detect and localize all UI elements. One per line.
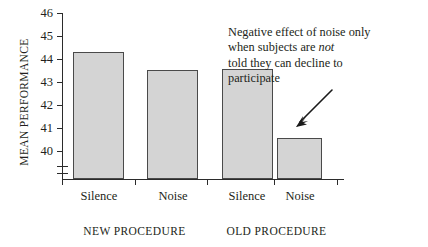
y-tick-label-46: 46 [41,5,54,21]
annotation-arrow-icon [288,88,336,132]
x-tick-0 [62,180,63,185]
y-axis-break-icon [57,163,69,179]
bar-old-noise [277,138,322,179]
group-label-old-procedure: OLD PROCEDURE [199,225,354,237]
annotation-line-2-prefix: when subjects are [228,40,319,54]
bar-chart-figure: MEAN PERFORMANCE 46 45 44 43 42 41 40 [0,0,428,247]
y-tick-44: 44 [57,59,62,60]
y-tick-label-42: 42 [41,97,54,113]
y-tick-46: 46 [57,13,62,14]
x-tick-1 [135,180,136,185]
y-tick-40: 40 [57,151,62,152]
x-tick-3 [274,180,275,185]
y-tick-43: 43 [57,82,62,83]
x-category-label-old-noise: Noise [269,189,331,204]
x-category-label-new-noise: Noise [142,189,204,204]
x-axis-line [62,179,344,180]
y-tick-label-41: 41 [41,120,54,136]
y-tick-label-40: 40 [41,143,54,159]
bar-new-noise [147,70,198,179]
chart-annotation: Negative effect of noise only when subje… [228,25,424,87]
y-tick-label-45: 45 [41,28,54,44]
group-label-new-procedure: NEW PROCEDURE [57,225,212,237]
y-axis-title: MEAN PERFORMANCE [18,22,30,182]
x-tick-4 [337,180,338,185]
annotation-line-2: when subjects are not [228,40,424,55]
y-axis-line [62,13,63,180]
annotation-line-3: told they can decline to [228,56,424,71]
annotation-line-1: Negative effect of noise only [228,25,424,40]
y-tick-42: 42 [57,105,62,106]
annotation-line-2-emphasis: not [319,40,335,54]
y-tick-45: 45 [57,36,62,37]
bar-new-silence [73,52,124,179]
annotation-line-4: participate [228,71,424,86]
x-category-label-new-silence: Silence [68,189,130,204]
y-tick-label-44: 44 [41,51,54,67]
x-tick-2 [207,180,208,185]
y-tick-41: 41 [57,128,62,129]
y-tick-label-43: 43 [41,74,54,90]
